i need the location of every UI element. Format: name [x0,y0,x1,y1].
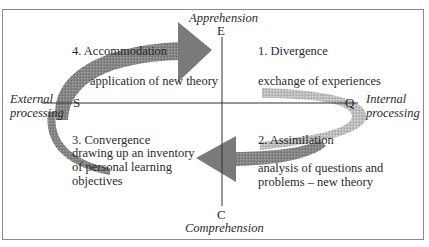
quadrant-2-title: 2. Assimilation [258,133,334,147]
quadrant-2-description: analysis of questions and problems – new… [258,161,383,189]
pole-e: E [217,24,225,38]
comprehension-caption: Comprehension [185,221,264,235]
external-processing-caption: External processing [10,92,64,120]
quadrant-3-description: drawing up an inventory of personal lear… [72,146,195,188]
pole-s: S [73,96,80,110]
quadrant-4-title: 4. Accommodation [72,44,167,58]
arrowhead-bottom [196,136,236,182]
quadrant-4-description: application of new theory [90,74,218,88]
internal-processing-caption: Internal processing [366,92,420,120]
cycle-arrows [0,0,429,247]
quadrant-3-title: 3. Convergence [72,133,150,147]
quadrant-1-description: exchange of experiences [258,74,381,88]
pole-q: Q [345,96,354,110]
quadrant-1-title: 1. Divergence [258,44,328,58]
pole-c: C [217,208,226,222]
arrowhead-top [178,22,212,82]
